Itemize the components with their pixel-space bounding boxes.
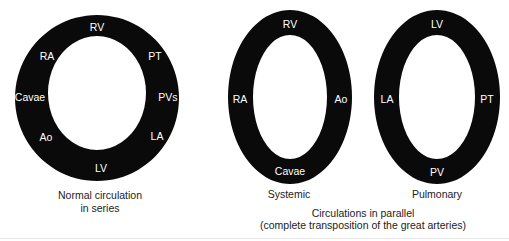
series-label-rv: RV — [90, 21, 104, 33]
bottom-divider — [0, 238, 509, 239]
pulmonary-label-pv: PV — [430, 166, 444, 178]
pulmonary-circulation-ring: LV PT PV LA — [374, 10, 500, 184]
systemic-caption: Systemic — [268, 188, 311, 200]
pulmonary-label-pt: PT — [480, 93, 494, 105]
systemic-label-cavae: Cavae — [275, 165, 306, 177]
pulmonary-label-la: LA — [381, 93, 394, 105]
series-label-ra: RA — [40, 50, 55, 62]
parallel-caption-line1: Circulations in parallel — [312, 207, 415, 219]
pulmonary-label-lv: LV — [431, 18, 443, 30]
series-label-pvs: PVs — [158, 91, 177, 103]
series-caption-line1: Normal circulation — [58, 189, 142, 201]
systemic-label-rv: RV — [283, 18, 297, 30]
series-circulation-ring: RV PT PVs LA LV Ao Cavae RA — [15, 15, 179, 181]
series-label-pt: PT — [148, 50, 162, 62]
series-caption-line2: in series — [80, 202, 119, 214]
systemic-circulation-ring: RV Ao Cavae RA — [228, 10, 352, 184]
systemic-label-ao: Ao — [335, 93, 348, 105]
systemic-label-ra: RA — [233, 93, 248, 105]
pulmonary-caption: Pulmonary — [412, 188, 463, 200]
series-label-cavae: Cavae — [15, 91, 46, 103]
parallel-caption-line2: (complete transposition of the great art… — [260, 219, 466, 231]
series-label-ao: Ao — [40, 131, 53, 143]
series-label-la: LA — [151, 130, 164, 142]
series-label-lv: LV — [95, 162, 107, 174]
circulation-diagram: RV PT PVs LA LV Ao Cavae RA Normal circu… — [0, 0, 509, 241]
